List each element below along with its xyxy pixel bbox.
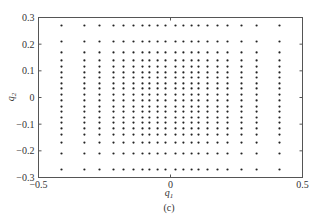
data-point	[197, 51, 199, 53]
data-point	[240, 94, 242, 96]
data-point	[164, 51, 166, 53]
data-point	[174, 59, 176, 61]
data-point	[182, 87, 184, 89]
data-point	[122, 127, 124, 129]
data-point	[164, 111, 166, 113]
data-point	[141, 127, 143, 129]
data-point	[157, 59, 159, 61]
data-point	[157, 106, 159, 108]
data-point	[216, 40, 218, 42]
data-point	[197, 122, 199, 124]
data-point	[174, 116, 176, 118]
data-point	[256, 122, 258, 124]
data-point	[141, 66, 143, 68]
data-point	[240, 116, 242, 118]
data-point	[122, 94, 124, 96]
data-point	[60, 40, 62, 42]
data-point	[278, 111, 280, 113]
data-point	[240, 168, 242, 170]
data-point	[278, 82, 280, 84]
data-point	[206, 152, 208, 154]
data-point	[278, 127, 280, 129]
data-point	[164, 122, 166, 124]
data-point	[206, 127, 208, 129]
data-point	[148, 82, 150, 84]
data-point	[240, 24, 242, 26]
data-point	[98, 168, 100, 170]
data-point	[60, 94, 62, 96]
data-point	[122, 82, 124, 84]
data-point	[157, 40, 159, 42]
data-point	[60, 111, 62, 113]
data-point	[98, 76, 100, 78]
data-point	[240, 111, 242, 113]
data-point	[197, 87, 199, 89]
data-point	[216, 168, 218, 170]
data-point	[122, 111, 124, 113]
data-point	[174, 168, 176, 170]
data-point	[164, 87, 166, 89]
data-point	[256, 168, 258, 170]
data-point	[226, 142, 228, 144]
data-point	[182, 71, 184, 73]
data-point	[157, 127, 159, 129]
data-point	[182, 122, 184, 124]
data-point	[148, 127, 150, 129]
data-point	[197, 24, 199, 26]
data-point	[83, 76, 85, 78]
data-point	[98, 127, 100, 129]
data-point	[191, 134, 193, 136]
data-point	[226, 134, 228, 136]
data-point	[256, 152, 258, 154]
data-point	[197, 142, 199, 144]
data-point	[157, 168, 159, 170]
data-point	[148, 94, 150, 96]
data-point	[206, 82, 208, 84]
data-point	[83, 152, 85, 154]
data-point	[182, 111, 184, 113]
data-point	[112, 51, 114, 53]
data-point	[206, 116, 208, 118]
data-point	[206, 94, 208, 96]
data-point	[112, 106, 114, 108]
data-point	[174, 122, 176, 124]
data-point	[226, 59, 228, 61]
data-point	[164, 76, 166, 78]
data-point	[226, 87, 228, 89]
data-point	[157, 142, 159, 144]
data-point	[157, 76, 159, 78]
data-point	[240, 87, 242, 89]
data-point	[216, 51, 218, 53]
data-point	[174, 142, 176, 144]
data-point	[164, 142, 166, 144]
y-tick-label: 0	[30, 92, 35, 103]
data-point	[141, 71, 143, 73]
data-point	[98, 116, 100, 118]
data-point	[148, 134, 150, 136]
data-point	[132, 122, 134, 124]
data-point	[206, 168, 208, 170]
data-point	[122, 71, 124, 73]
data-point	[141, 51, 143, 53]
data-point	[216, 111, 218, 113]
data-point	[164, 40, 166, 42]
data-point	[98, 71, 100, 73]
data-point	[197, 106, 199, 108]
data-point	[141, 40, 143, 42]
data-point	[206, 51, 208, 53]
data-point	[174, 111, 176, 113]
data-point	[174, 152, 176, 154]
data-point	[182, 51, 184, 53]
data-point	[83, 116, 85, 118]
data-point	[122, 66, 124, 68]
data-point	[112, 122, 114, 124]
data-point	[191, 66, 193, 68]
data-point	[148, 99, 150, 101]
data-point	[164, 94, 166, 96]
data-point	[132, 66, 134, 68]
data-point	[98, 122, 100, 124]
data-point	[112, 168, 114, 170]
data-point	[83, 127, 85, 129]
data-point	[226, 24, 228, 26]
data-point	[226, 127, 228, 129]
